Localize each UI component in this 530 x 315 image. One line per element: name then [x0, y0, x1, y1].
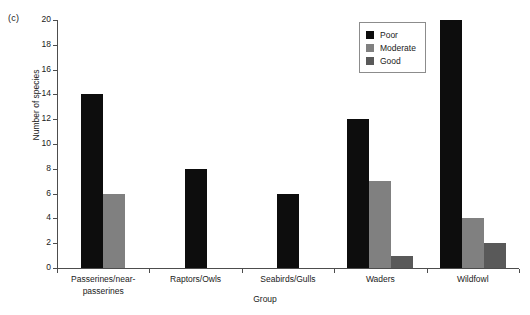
bar-group: Wildfowl — [427, 20, 519, 268]
y-axis-tick-label: 4 — [46, 212, 51, 222]
legend-item: Good — [366, 54, 416, 67]
legend-label: Poor — [380, 30, 398, 40]
y-axis-tick-label: 12 — [42, 113, 51, 123]
bar — [369, 181, 391, 268]
legend: PoorModerateGood — [359, 22, 426, 73]
bar — [462, 218, 484, 268]
x-axis-category-label: Wildfowl — [418, 274, 528, 286]
y-axis-tick-label: 20 — [42, 14, 51, 24]
x-axis-category-label-line: Wildfowl — [418, 274, 528, 286]
bar — [347, 119, 369, 268]
bar — [391, 256, 413, 268]
x-axis-tick — [519, 269, 520, 273]
panel-label: (c) — [8, 13, 19, 23]
y-axis-tick-label: 10 — [42, 138, 51, 148]
bar — [103, 194, 125, 268]
x-axis-line — [57, 268, 519, 269]
x-axis-tick — [427, 269, 428, 273]
legend-label: Moderate — [380, 43, 416, 53]
figure-panel-c: (c) Number of species Group 024681012141… — [0, 0, 530, 315]
bar-group: Raptors/Owls — [149, 20, 241, 268]
bar — [484, 243, 506, 268]
legend-label: Good — [380, 56, 401, 66]
y-axis-tick-label: 14 — [42, 88, 51, 98]
legend-swatch — [366, 31, 374, 39]
legend-item: Poor — [366, 28, 416, 41]
y-axis-title: Number of species — [31, 25, 41, 185]
bar — [440, 20, 462, 268]
bar — [81, 94, 103, 268]
bar — [277, 194, 299, 268]
y-axis-tick-label: 16 — [42, 64, 51, 74]
x-axis-tick — [149, 269, 150, 273]
y-axis-tick-label: 2 — [46, 237, 51, 247]
legend-item: Moderate — [366, 41, 416, 54]
x-axis-tick — [334, 269, 335, 273]
x-axis-tick — [242, 269, 243, 273]
legend-swatch — [366, 57, 374, 65]
bar — [185, 169, 207, 268]
y-axis-tick-label: 6 — [46, 188, 51, 198]
bar-group: Seabirds/Gulls — [242, 20, 334, 268]
y-axis-tick-label: 8 — [46, 163, 51, 173]
x-axis-category-label-line: passerines — [48, 286, 158, 298]
y-axis-tick-label: 18 — [42, 39, 51, 49]
x-axis-tick — [57, 269, 58, 273]
bar-group: Passerines/near-passerines — [57, 20, 149, 268]
plot-area: 02468101214161820 Passerines/near-passer… — [57, 20, 519, 268]
y-axis-tick-label: 0 — [46, 262, 51, 272]
legend-swatch — [366, 44, 374, 52]
